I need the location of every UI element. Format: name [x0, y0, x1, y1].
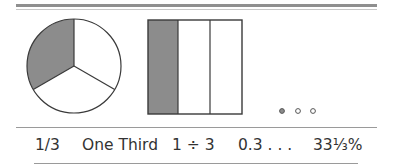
label-rule-top [16, 127, 377, 128]
label-fraction: 1/3 [35, 136, 60, 154]
label-percent: 33⅓% [313, 136, 362, 154]
dots-one-of-three [280, 109, 316, 114]
label-decimal: 0.3 . . . [238, 136, 292, 154]
bar-model-one-third [148, 20, 242, 114]
pie-chart-one-third [27, 19, 121, 113]
label-rule-bottom [34, 163, 358, 164]
label-division: 1 ÷ 3 [172, 136, 215, 154]
label-words: One Third [82, 136, 158, 154]
